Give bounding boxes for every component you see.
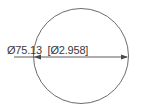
technical-drawing-canvas: Ø75.13 [Ø2.958] xyxy=(0,0,144,109)
drawing-svg-root: Ø75.13 [Ø2.958] xyxy=(0,0,144,109)
circle-outline xyxy=(34,9,129,104)
dimension-arrowhead-right xyxy=(121,55,128,60)
diameter-dimension-label: Ø75.13 [Ø2.958] xyxy=(7,44,88,56)
